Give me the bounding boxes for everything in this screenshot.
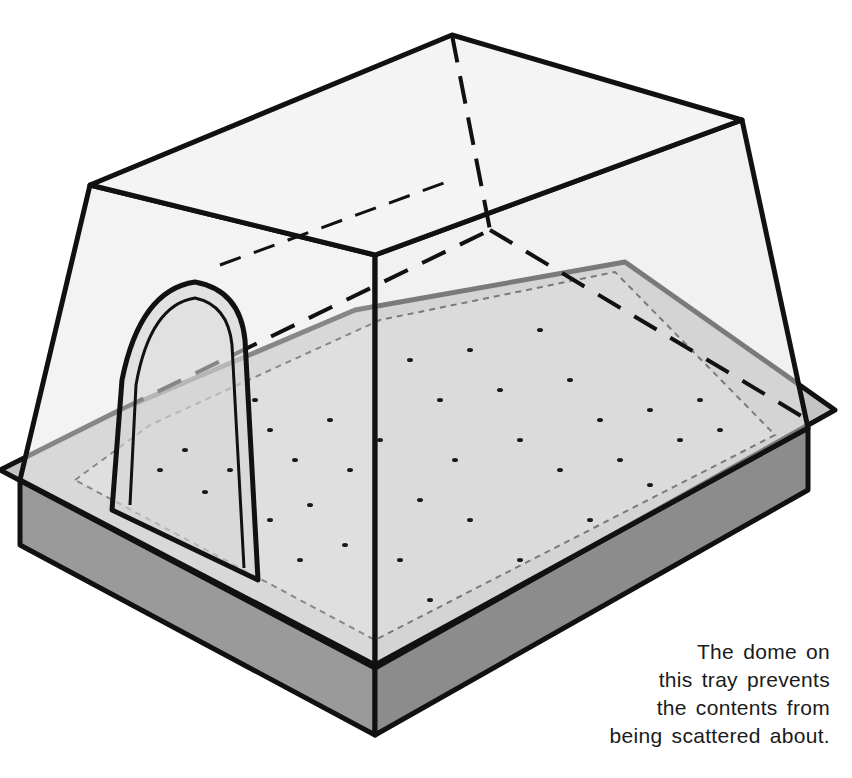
caption: The dome on this tray prevents the conte…	[500, 638, 830, 750]
caption-line-2: this tray prevents	[500, 666, 830, 694]
caption-line-4: being scattered about.	[500, 722, 830, 750]
caption-line-3: the contents from	[500, 694, 830, 722]
caption-line-1: The dome on	[500, 638, 830, 666]
